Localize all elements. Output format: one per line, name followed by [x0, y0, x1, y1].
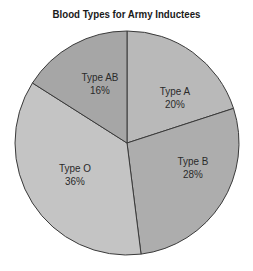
slice-name: Type O [48, 162, 102, 175]
slice-name: Type B [166, 155, 220, 168]
slice-label-type-o: Type O 36% [48, 162, 102, 188]
slice-percent: 20% [148, 98, 202, 111]
slice-percent: 16% [73, 84, 127, 97]
slice-percent: 36% [48, 175, 102, 188]
slice-name: Type A [148, 85, 202, 98]
pie-chart [0, 0, 253, 271]
slice-label-type-ab: Type AB 16% [73, 71, 127, 97]
slice-name: Type AB [73, 71, 127, 84]
slice-label-type-a: Type A 20% [148, 85, 202, 111]
slice-label-type-b: Type B 28% [166, 155, 220, 181]
slice-percent: 28% [166, 168, 220, 181]
